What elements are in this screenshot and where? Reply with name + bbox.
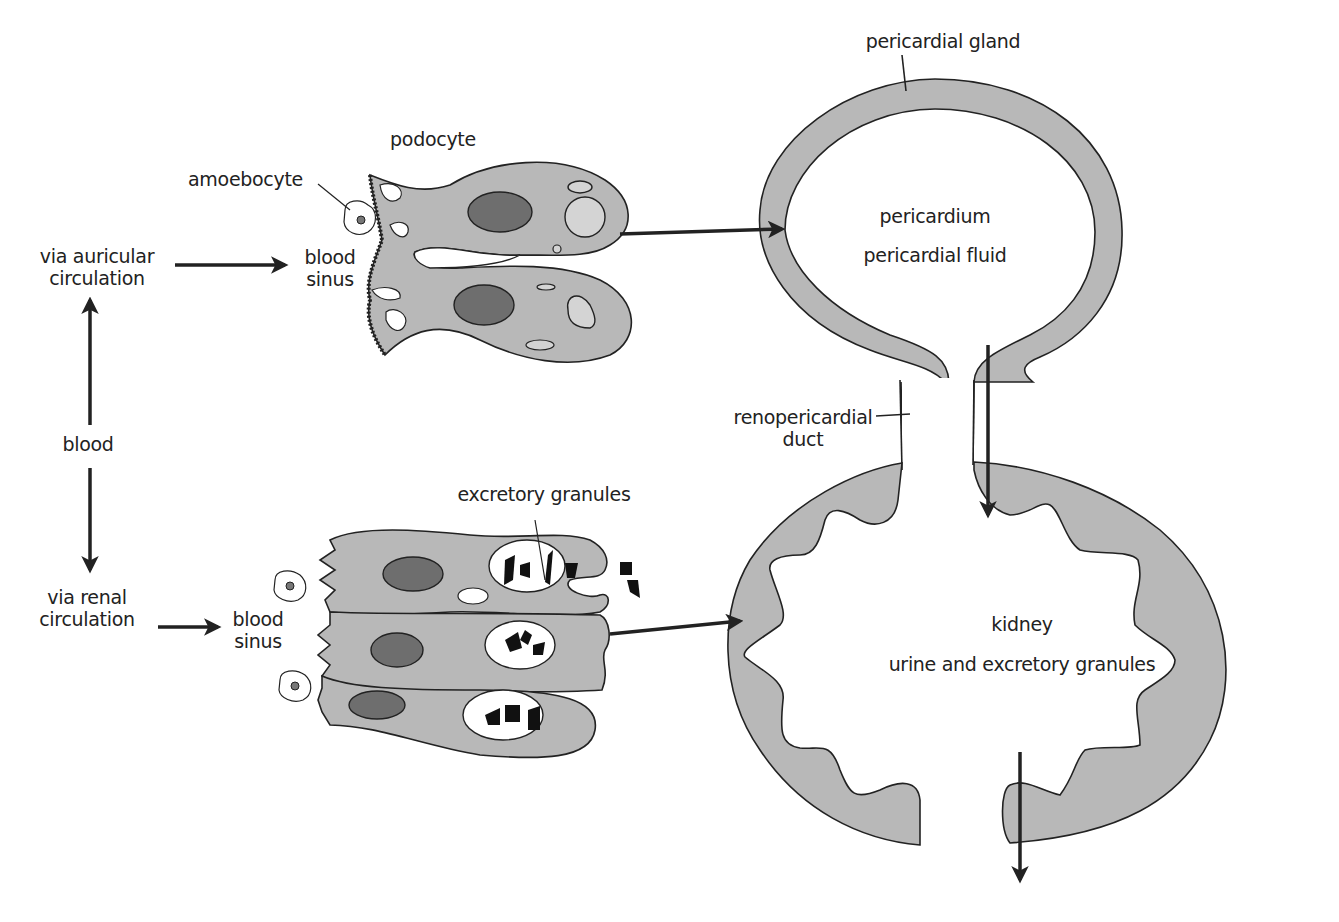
arrow-renal-to-kidney	[610, 621, 740, 634]
renopericardial-duct-shape	[876, 378, 974, 470]
label-via-auricular: via auricular circulation	[40, 245, 154, 289]
label-pericardial-gland: pericardial gland	[866, 30, 1021, 52]
label-pericardial-fluid: pericardial fluid	[864, 244, 1007, 266]
amoebocyte-top	[318, 184, 376, 234]
label-pericardium: pericardium	[880, 205, 991, 227]
label-via-renal: via renal circulation	[39, 586, 135, 630]
label-renopericardial-duct: renopericardial duct	[734, 406, 873, 450]
label-amoebocyte: amoebocyte	[188, 168, 303, 190]
label-blood: blood	[62, 433, 113, 455]
label-excretory-granules: excretory granules	[457, 483, 630, 505]
diagram-canvas	[0, 0, 1339, 922]
podocyte-cells	[369, 162, 632, 362]
label-blood-sinus-bottom: blood sinus	[232, 608, 283, 652]
label-blood-sinus-top: blood sinus	[304, 246, 355, 290]
label-kidney: kidney	[991, 613, 1053, 635]
arrow-podocyte-to-pericardium	[620, 229, 782, 234]
label-urine-and-granules: urine and excretory granules	[889, 653, 1156, 675]
label-podocyte: podocyte	[390, 128, 476, 150]
renal-epithelial-cells	[318, 520, 640, 757]
